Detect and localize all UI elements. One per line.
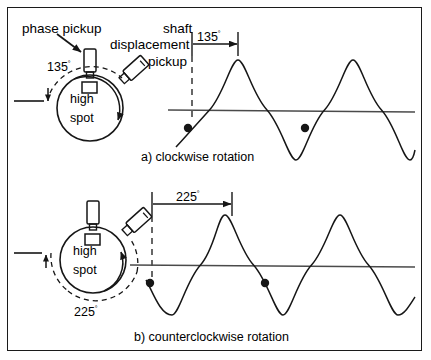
zero-axis-b: [130, 265, 415, 267]
label-phase-pickup: phase pickup: [22, 22, 102, 36]
label-pickup: pickup: [148, 55, 187, 69]
label-shaft: shaft: [163, 22, 192, 36]
phase-marker-dot-b2: [261, 279, 269, 287]
degree-symbol-b2: °: [95, 305, 98, 312]
label-arc-angle-a: 135°: [47, 60, 71, 74]
arc-angle-value-b: 225: [74, 305, 95, 319]
panel-b-waveform: [130, 192, 415, 315]
phase-marker-dot-a1: [184, 124, 192, 132]
rotor-circle-b: [60, 227, 126, 293]
phase-marker-dot-b1: [146, 279, 154, 287]
caption-panel-b: b) counterclockwise rotation: [134, 331, 289, 344]
caption-panel-a: a) clockwise rotation: [141, 151, 254, 164]
dim-angle-value-b: 225: [176, 190, 197, 204]
arc-angle-value-a: 135: [47, 60, 68, 74]
zero-axis-a: [168, 110, 415, 112]
phase-pickup-leader-a: [57, 34, 81, 52]
phase-marker-dot-a2: [301, 124, 309, 132]
label-high-b: high: [73, 245, 97, 258]
label-displacement: displacement: [110, 38, 190, 52]
label-high-a: high: [70, 93, 94, 106]
degree-symbol-a1: °: [68, 60, 71, 67]
label-dim-angle-b: 225°: [176, 190, 200, 204]
rotor-circle-a: [57, 75, 123, 141]
displacement-pickup-probe-b: [120, 207, 152, 237]
figure-root: phase pickup shaft displacement pickup 1…: [0, 0, 431, 360]
degree-symbol-b1: °: [197, 190, 200, 197]
degree-symbol-a2: °: [218, 30, 221, 37]
phase-pickup-probe-b: [87, 201, 99, 224]
label-dim-angle-a: 135°: [197, 30, 221, 44]
phase-angle-arc-b-part3: [131, 240, 138, 272]
dim-angle-value-a: 135: [197, 30, 218, 44]
rotation-arrow-counterclockwise-b: [104, 252, 123, 291]
panel-a-waveform: [168, 32, 415, 160]
label-arc-angle-b: 225°: [74, 305, 98, 319]
displacement-pickup-probe-a: [117, 55, 149, 85]
label-spot-b: spot: [73, 264, 97, 277]
diagram-canvas: [0, 0, 431, 360]
label-spot-a: spot: [70, 112, 94, 125]
phase-pickup-probe-a: [84, 49, 96, 72]
